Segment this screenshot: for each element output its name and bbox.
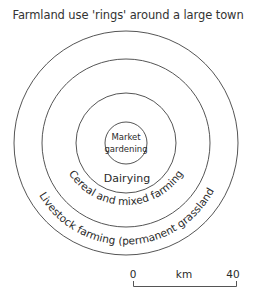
dairying-label: Dairying xyxy=(104,172,150,185)
ring-market-gardening xyxy=(105,122,147,164)
ring-livestock xyxy=(14,31,238,255)
market-gardening-label-line1: Market xyxy=(111,132,141,142)
scale-end-label: 40 xyxy=(226,268,239,280)
scale-start-label: 0 xyxy=(130,268,137,280)
rings-diagram: Market gardening Dairying Cereal and mix… xyxy=(0,0,256,303)
livestock-label: Livestock farming (permanent grassland xyxy=(37,186,216,247)
livestock-label-path: Livestock farming (permanent grassland xyxy=(37,186,216,247)
scale-bar: 0 km 40 xyxy=(130,268,240,287)
scale-line xyxy=(134,281,237,287)
scale-unit-label: km xyxy=(176,268,192,280)
market-gardening-label-line2: gardening xyxy=(104,144,147,154)
